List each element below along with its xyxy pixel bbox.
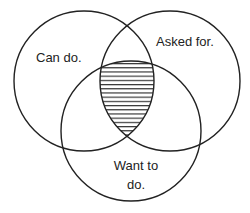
label-want-to-do-line2: do. [127, 177, 145, 192]
label-asked-for: Asked for. [156, 34, 214, 49]
label-want-to-do-line1: Want to [114, 158, 158, 173]
label-can-do: Can do. [36, 50, 82, 65]
venn-diagram: Can do. Asked for. Want to do. [0, 0, 250, 213]
